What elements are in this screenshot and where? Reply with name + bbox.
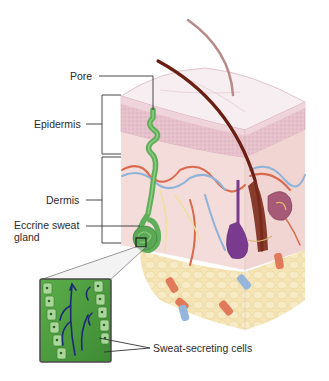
sebaceous-gland — [268, 191, 292, 220]
label-eccrine-gland-line1: Eccrine sweat — [14, 219, 79, 231]
epidermis-bracket — [102, 95, 121, 154]
label-eccrine-gland-line2: gland — [14, 231, 40, 243]
label-sweat-secreting-cells: Sweat-secreting cells — [153, 342, 252, 354]
skin-diagram — [0, 0, 329, 381]
label-pore: Pore — [70, 70, 92, 82]
label-dermis: Dermis — [46, 194, 79, 206]
dermis-bracket — [102, 157, 121, 243]
inset-magnified — [40, 247, 146, 362]
label-epidermis: Epidermis — [34, 118, 81, 130]
